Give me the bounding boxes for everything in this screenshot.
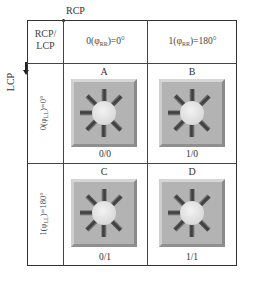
column-divider-left xyxy=(63,20,64,266)
column-header-rr-180: 1(φRR)=180° xyxy=(148,35,237,50)
cell-d-tile xyxy=(159,179,225,247)
cell-b-code: 1/0 xyxy=(150,149,234,159)
cell-d-letter: D xyxy=(159,166,225,177)
cell-a-tile xyxy=(71,79,137,147)
column-header-rr-0: 0(φRR)=0° xyxy=(64,35,147,50)
row-header-ll-0: 0(φLL)=0° xyxy=(38,73,52,153)
lcp-axis-label: LCP xyxy=(5,67,19,97)
sunburst-icon xyxy=(162,182,222,244)
header-row-divider xyxy=(27,63,237,64)
sunburst-icon xyxy=(74,82,134,144)
sunburst-icon xyxy=(74,182,134,244)
cell-b-letter: B xyxy=(159,66,225,77)
row-divider xyxy=(27,163,237,164)
cell-c-tile xyxy=(71,179,137,247)
column-divider-middle xyxy=(147,20,148,266)
cell-c-letter: C xyxy=(71,166,137,177)
rcp-axis-label: RCP xyxy=(66,5,85,16)
cell-a-code: 0/0 xyxy=(63,149,147,159)
cell-d-code: 1/1 xyxy=(150,252,234,262)
corner-header: RCP/ LCP xyxy=(28,28,63,52)
corner-header-line2: LCP xyxy=(28,40,63,52)
cell-a-letter: A xyxy=(71,66,137,77)
corner-header-line1: RCP/ xyxy=(28,28,63,40)
cell-c-code: 0/1 xyxy=(63,252,147,262)
sunburst-icon xyxy=(162,82,222,144)
cell-b-tile xyxy=(159,79,225,147)
row-header-ll-180: 1(φLL)=180° xyxy=(38,174,52,254)
